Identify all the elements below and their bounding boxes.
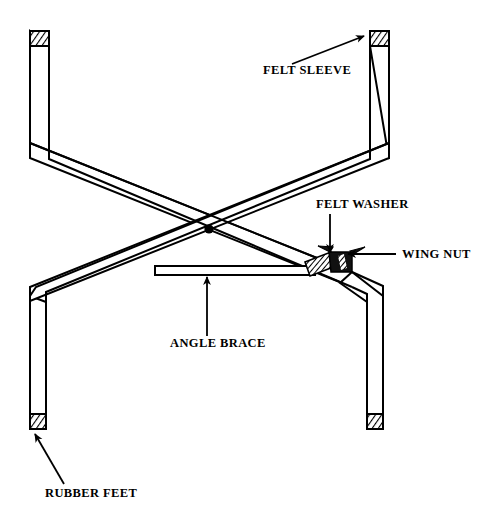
rubber-foot-left: [30, 414, 46, 429]
left-leg-inner-edge: [49, 46, 352, 287]
felt-sleeve-right: [370, 31, 389, 46]
left-upper-tube: [30, 31, 49, 159]
felt-sleeve-left-body: [30, 31, 49, 46]
left-diagonal-to-right-foot: [340, 272, 383, 429]
rubber-foot-right: [367, 414, 383, 429]
label-felt-sleeve: FELT SLEEVE: [263, 63, 351, 77]
center-pivot-dot: [204, 224, 213, 233]
left-leg-lower-tube: [30, 296, 46, 429]
angle-brace-bar: [155, 266, 315, 275]
right-upper-tube: [370, 31, 389, 159]
felt-sleeve-leader: [292, 36, 364, 64]
right-foot-leg-inner-edge: [352, 287, 367, 429]
label-wing-nut: WING NUT: [402, 247, 471, 261]
stand-figure-svg: FELT SLEEVE FELT WASHER WING NUT ANGLE B…: [0, 0, 485, 524]
felt-sleeve-left: [30, 31, 49, 46]
label-angle-brace: ANGLE BRACE: [170, 336, 266, 350]
rubber-feet-leader: [35, 434, 64, 484]
rubber-foot-left-body: [30, 414, 46, 429]
right-leg-inner-edge: [46, 46, 370, 429]
label-rubber-feet: RUBBER FEET: [45, 486, 138, 500]
angle-brace-group: [155, 266, 315, 275]
pivot-hardware-group: [305, 246, 365, 276]
rubber-foot-right-body: [367, 414, 383, 429]
felt-sleeve-right-body: [370, 31, 389, 46]
technical-diagram: FELT SLEEVE FELT WASHER WING NUT ANGLE B…: [0, 0, 485, 524]
label-felt-washer: FELT WASHER: [316, 197, 409, 211]
